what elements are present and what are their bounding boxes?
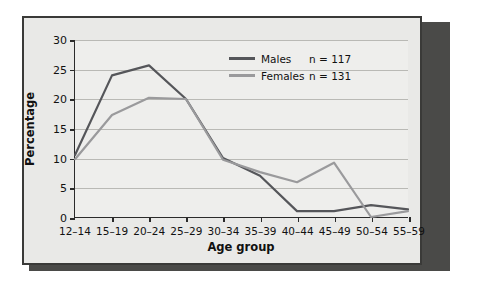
legend-item: Femalesn = 131 bbox=[229, 67, 351, 84]
chart-legend: Malesn = 117Femalesn = 131 bbox=[229, 50, 351, 84]
line-chart: Percentage 051015202530 12–1415–1920–242… bbox=[24, 18, 420, 263]
legend-count: n = 131 bbox=[309, 70, 351, 82]
y-tick-label: 0 bbox=[60, 212, 67, 225]
x-tick-mark bbox=[186, 217, 188, 222]
x-axis-title: Age group bbox=[74, 240, 408, 254]
legend-swatch-icon bbox=[229, 74, 255, 77]
x-tick-label: 35–39 bbox=[245, 225, 277, 237]
x-tick-mark bbox=[298, 217, 300, 222]
legend-label: Males bbox=[261, 53, 309, 65]
x-tick-mark bbox=[223, 217, 225, 222]
x-tick-label: 50–54 bbox=[356, 225, 388, 237]
x-tick-mark bbox=[112, 217, 114, 222]
x-tick-label: 12–14 bbox=[59, 225, 91, 237]
x-tick-mark bbox=[149, 217, 151, 222]
x-tick-label: 30–34 bbox=[207, 225, 239, 237]
y-tick-label: 15 bbox=[53, 123, 67, 136]
x-tick-mark bbox=[335, 217, 337, 222]
legend-count: n = 117 bbox=[309, 53, 351, 65]
x-tick-label: 45–49 bbox=[319, 225, 351, 237]
y-tick-label: 20 bbox=[53, 93, 67, 106]
y-tick-label: 25 bbox=[53, 63, 67, 76]
x-tick-label: 25–29 bbox=[170, 225, 202, 237]
legend-item: Malesn = 117 bbox=[229, 50, 351, 67]
y-tick-label: 10 bbox=[53, 152, 67, 165]
y-tick-label: 30 bbox=[53, 34, 67, 47]
y-tick-mark bbox=[70, 218, 75, 220]
x-tick-label: 40–44 bbox=[282, 225, 314, 237]
y-axis-title: Percentage bbox=[23, 92, 37, 166]
x-tick-label: 55–59 bbox=[393, 225, 425, 237]
figure-frame: Percentage 051015202530 12–1415–1920–242… bbox=[22, 16, 422, 265]
y-tick-label: 5 bbox=[60, 182, 67, 195]
series-line-females bbox=[75, 98, 408, 217]
x-tick-mark bbox=[261, 217, 263, 222]
series-line-males bbox=[75, 65, 408, 211]
x-tick-label: 15–19 bbox=[96, 225, 128, 237]
x-tick-mark bbox=[409, 217, 411, 222]
legend-swatch-icon bbox=[229, 57, 255, 60]
x-tick-label: 20–24 bbox=[133, 225, 165, 237]
legend-label: Females bbox=[261, 70, 309, 82]
